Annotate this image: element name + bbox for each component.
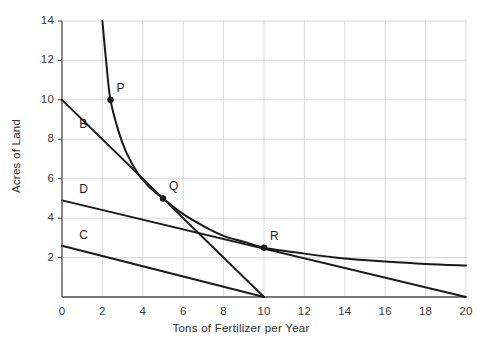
y-axis-title: Acres of Land <box>10 96 22 216</box>
x-tick-label: 4 <box>128 305 158 317</box>
x-tick-label: 18 <box>411 305 441 317</box>
y-tick-label: 4 <box>28 211 54 223</box>
y-tick-label: 8 <box>28 132 54 144</box>
point-label-P: P <box>116 81 124 95</box>
x-tick-label: 16 <box>370 305 400 317</box>
x-axis-title: Tons of Fertilizer per Year <box>0 322 482 334</box>
curve-label-D: D <box>79 182 88 196</box>
data-point-markers <box>107 97 267 251</box>
axes <box>58 21 466 297</box>
isoquant-chart: 024681012141618202468101214 Tons of Fert… <box>0 0 482 346</box>
x-tick-label: 14 <box>330 305 360 317</box>
y-tick-label: 6 <box>28 172 54 184</box>
series-line-C <box>62 246 264 297</box>
x-tick-label: 20 <box>451 305 481 317</box>
y-tick-label: 10 <box>28 93 54 105</box>
series-isoquant-curve <box>102 21 466 265</box>
point-label-Q: Q <box>169 179 179 193</box>
x-tick-label: 0 <box>47 305 77 317</box>
marker-Q <box>160 195 166 201</box>
x-tick-label: 12 <box>289 305 319 317</box>
y-tick-label: 14 <box>28 14 54 26</box>
x-tick-label: 8 <box>209 305 239 317</box>
curve-label-B: B <box>79 117 87 131</box>
point-label-R: R <box>270 229 279 243</box>
plot-area <box>0 0 482 346</box>
x-tick-label: 10 <box>249 305 279 317</box>
x-tick-label: 2 <box>87 305 117 317</box>
x-tick-label: 6 <box>168 305 198 317</box>
marker-R <box>261 245 267 251</box>
y-tick-label: 2 <box>28 251 54 263</box>
curve-label-C: C <box>79 228 88 242</box>
marker-P <box>107 97 113 103</box>
y-tick-label: 12 <box>28 53 54 65</box>
